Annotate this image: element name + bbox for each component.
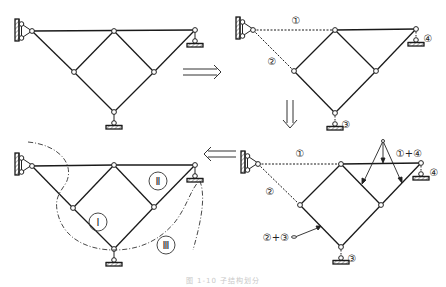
pointer-arrows-1plus4 — [362, 140, 402, 185]
label-p2-2: ② — [268, 56, 277, 67]
figure-canvas: ① ② ③ ④ ① ② ③ ④ — [0, 0, 446, 287]
label-p3-1: ① — [296, 148, 305, 159]
panel-original — [15, 19, 203, 129]
label-p3-2: ② — [266, 186, 275, 197]
label-p3-3: ③ — [348, 253, 357, 264]
label-p3-2plus3: ②+③ — [263, 232, 289, 243]
panel-decomposed — [236, 17, 424, 130]
panel-substructures — [15, 153, 203, 266]
figure-caption: 图 1-10 子结构划分 — [0, 275, 446, 285]
label-p2-4: ④ — [424, 33, 433, 44]
label-p2-3: ③ — [342, 119, 351, 130]
label-substructure-III: Ⅲ — [163, 240, 170, 251]
panel-combined — [241, 151, 429, 264]
label-p3-1plus4: ①+④ — [396, 148, 422, 159]
arrow-down-icon — [283, 100, 297, 128]
substructure-boundaries — [28, 142, 203, 250]
arrow-right-icon — [183, 65, 221, 79]
diagram-svg: ① ② ③ ④ ① ② ③ ④ — [0, 0, 446, 287]
pointer-arrow-2plus3 — [292, 226, 322, 238]
label-p3-4: ④ — [430, 167, 439, 178]
label-p2-1: ① — [292, 15, 301, 26]
label-substructure-II: Ⅱ — [156, 176, 161, 187]
arrow-left-icon — [204, 147, 236, 161]
label-substructure-I: Ⅰ — [97, 217, 100, 228]
